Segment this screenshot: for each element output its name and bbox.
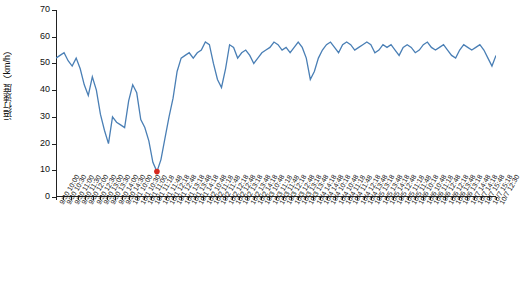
x-tick-mark	[452, 197, 453, 200]
x-tick-mark	[335, 197, 336, 200]
x-tick-mark	[305, 197, 306, 200]
x-tick-mark	[261, 197, 262, 200]
x-tick-mark	[129, 197, 130, 200]
x-tick-mark	[93, 197, 94, 200]
x-tick-mark	[166, 197, 167, 200]
x-tick-mark	[496, 197, 497, 200]
x-axis-ticks: 9/30 10:009/30 10:309/30 11:009/30 11:30…	[56, 197, 496, 277]
x-tick-mark	[78, 197, 79, 200]
x-tick-mark	[401, 197, 402, 200]
x-tick-mark	[489, 197, 490, 200]
x-tick-mark	[239, 197, 240, 200]
x-tick-mark	[467, 197, 468, 200]
x-tick-mark	[364, 197, 365, 200]
x-tick-mark	[283, 197, 284, 200]
x-tick-mark	[313, 197, 314, 200]
y-tick-label: 40	[30, 84, 50, 94]
x-tick-mark	[232, 197, 233, 200]
x-tick-mark	[71, 197, 72, 200]
x-tick-mark	[430, 197, 431, 200]
y-tick-label: 50	[30, 57, 50, 67]
y-tick-label: 0	[30, 191, 50, 201]
x-tick-mark	[85, 197, 86, 200]
x-tick-mark	[408, 197, 409, 200]
x-tick-mark	[144, 197, 145, 200]
y-axis-label: 运行速度（km/h）	[2, 46, 18, 120]
x-tick-mark	[56, 197, 57, 200]
x-tick-mark	[217, 197, 218, 200]
x-tick-mark	[276, 197, 277, 200]
x-tick-mark	[63, 197, 64, 200]
x-tick-mark	[291, 197, 292, 200]
x-tick-mark	[415, 197, 416, 200]
x-tick-mark	[137, 197, 138, 200]
y-tick-label: 60	[30, 31, 50, 41]
x-tick-mark	[371, 197, 372, 200]
x-tick-mark	[151, 197, 152, 200]
x-tick-mark	[349, 197, 350, 200]
x-tick-mark	[100, 197, 101, 200]
x-tick-mark	[269, 197, 270, 200]
x-tick-mark	[459, 197, 460, 200]
x-tick-mark	[386, 197, 387, 200]
x-tick-mark	[327, 197, 328, 200]
y-tick-label: 70	[30, 4, 50, 14]
x-tick-mark	[254, 197, 255, 200]
x-tick-mark	[225, 197, 226, 200]
line-path	[56, 42, 496, 172]
x-tick-mark	[188, 197, 189, 200]
x-tick-mark	[298, 197, 299, 200]
x-tick-mark	[320, 197, 321, 200]
speed-line-series	[56, 10, 496, 197]
x-tick-mark	[181, 197, 182, 200]
x-tick-mark	[107, 197, 108, 200]
x-tick-mark	[122, 197, 123, 200]
x-tick-mark	[423, 197, 424, 200]
x-tick-mark	[357, 197, 358, 200]
y-tick-label: 20	[30, 138, 50, 148]
x-tick-mark	[173, 197, 174, 200]
x-tick-mark	[437, 197, 438, 200]
x-tick-mark	[247, 197, 248, 200]
x-tick-mark	[195, 197, 196, 200]
x-tick-mark	[159, 197, 160, 200]
y-tick-label: 30	[30, 111, 50, 121]
x-tick-mark	[481, 197, 482, 200]
x-tick-mark	[203, 197, 204, 200]
x-tick-mark	[379, 197, 380, 200]
x-tick-mark	[210, 197, 211, 200]
x-tick-mark	[393, 197, 394, 200]
x-tick-mark	[342, 197, 343, 200]
x-tick-mark	[474, 197, 475, 200]
x-tick-mark	[115, 197, 116, 200]
x-tick-mark	[445, 197, 446, 200]
y-tick-label: 10	[30, 164, 50, 174]
